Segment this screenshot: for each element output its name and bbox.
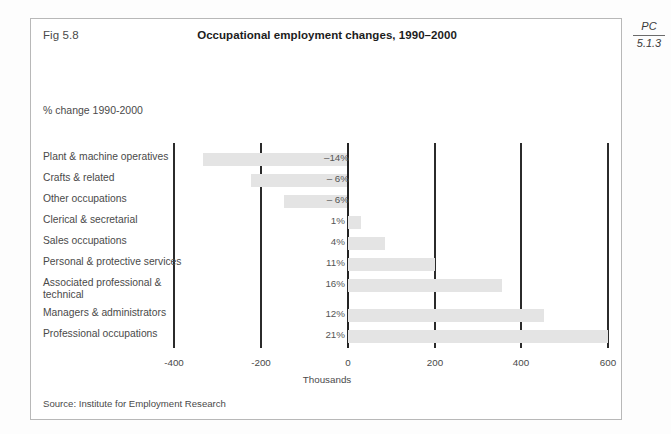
x-axis-title: Thousands bbox=[31, 374, 623, 385]
chart-title: Occupational employment changes, 1990–20… bbox=[31, 29, 623, 41]
reference-code: PC 5.1.3 bbox=[633, 20, 665, 51]
x-tick-label: -200 bbox=[251, 357, 271, 368]
bar-value-label: – 6% bbox=[307, 194, 349, 205]
figure-frame: Fig 5.8 Occupational employment changes,… bbox=[30, 18, 622, 420]
bar-row: Professional occupations 21% bbox=[31, 326, 623, 347]
bar-row: Sales occupations 4% bbox=[31, 233, 623, 254]
bar-row: Personal & protective services 11% bbox=[31, 254, 623, 275]
category-label: Personal & protective services bbox=[43, 256, 182, 268]
bar-personal-protective-services bbox=[348, 258, 435, 271]
bar-value-label: 4% bbox=[303, 236, 345, 247]
x-axis: -400 -200 0 200 400 600 bbox=[31, 357, 623, 373]
x-tick-label: 200 bbox=[427, 357, 443, 368]
category-label: Professional occupations bbox=[43, 328, 157, 340]
reference-code-top: PC bbox=[633, 20, 665, 36]
bar-value-label: 21% bbox=[303, 329, 345, 340]
bar-managers-administrators bbox=[348, 309, 544, 322]
category-label: Crafts & related bbox=[43, 172, 115, 184]
bar-clerical-secretarial bbox=[348, 216, 361, 229]
category-label: Managers & administrators bbox=[43, 307, 166, 319]
bar-value-label: –14% bbox=[307, 152, 349, 163]
category-label: Sales occupations bbox=[43, 235, 127, 247]
bar-row: Plant & machine operatives –14% bbox=[31, 149, 623, 170]
bar-value-label: – 6% bbox=[307, 173, 349, 184]
bar-value-label: 16% bbox=[303, 278, 345, 289]
reference-code-bottom: 5.1.3 bbox=[633, 36, 665, 51]
bar-professional-occupations bbox=[348, 330, 608, 343]
category-label: Other occupations bbox=[43, 193, 127, 205]
chart-subcaption: % change 1990-2000 bbox=[43, 104, 143, 116]
bar-row: Clerical & secretarial 1% bbox=[31, 212, 623, 233]
category-label: Plant & machine operatives bbox=[43, 151, 168, 163]
source-note: Source: Institute for Employment Researc… bbox=[43, 398, 226, 409]
category-label: Clerical & secretarial bbox=[43, 214, 137, 226]
x-tick-label: 600 bbox=[600, 357, 616, 368]
x-tick-label: 400 bbox=[513, 357, 529, 368]
bar-sales-occupations bbox=[348, 237, 385, 250]
bar-rows: Plant & machine operatives –14% Crafts &… bbox=[31, 149, 623, 347]
bar-associated-professional-technical bbox=[348, 279, 502, 292]
category-label: Associated professional & technical bbox=[43, 277, 161, 300]
plot-area: Plant & machine operatives –14% Crafts &… bbox=[31, 131, 623, 366]
bar-value-label: 12% bbox=[303, 308, 345, 319]
bar-row: Managers & administrators 12% bbox=[31, 305, 623, 326]
bar-value-label: 1% bbox=[303, 215, 345, 226]
bar-value-label: 11% bbox=[303, 257, 345, 268]
bar-row: Other occupations – 6% bbox=[31, 191, 623, 212]
x-tick-label: 0 bbox=[345, 357, 350, 368]
x-tick-label: -400 bbox=[164, 357, 184, 368]
bar-row: Crafts & related – 6% bbox=[31, 170, 623, 191]
bar-row: Associated professional & technical 16% bbox=[31, 275, 623, 305]
